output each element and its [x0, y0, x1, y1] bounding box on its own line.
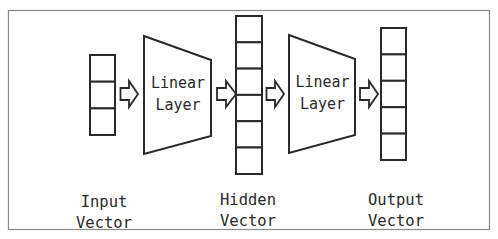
- input-vector-cell: [90, 82, 115, 109]
- hidden-vector-cell: [236, 121, 262, 147]
- hidden-vector-cell: [236, 42, 262, 68]
- input-vector-label-line2: Vector: [76, 214, 132, 232]
- output-vector-cell: [381, 107, 406, 133]
- output-vector-label-line2: Vector: [368, 212, 424, 230]
- output-vector-cell: [381, 134, 406, 160]
- input-vector: [90, 55, 115, 135]
- hidden-vector-cell: [236, 95, 262, 121]
- output-vector-cell: [381, 28, 406, 54]
- hidden-vector-cell: [236, 69, 262, 95]
- linear-layer-2-line1: Linear: [295, 73, 349, 91]
- hidden-vector: [236, 16, 262, 174]
- hidden-vector-label-line2: Vector: [220, 212, 276, 230]
- output-vector-cell: [381, 81, 406, 107]
- linear-layer-1-line1: Linear: [151, 74, 205, 92]
- linear-layer-1-line2: Layer: [155, 96, 200, 114]
- hidden-vector-cell: [236, 148, 262, 175]
- hidden-vector-cell: [236, 16, 262, 42]
- hidden-vector-label-line1: Hidden: [220, 191, 276, 209]
- input-vector-cell: [90, 55, 115, 82]
- input-vector-cell: [90, 108, 115, 135]
- output-vector-label-line1: Output: [368, 191, 424, 209]
- linear-layer-2-line2: Layer: [300, 95, 345, 113]
- output-vector-cell: [381, 54, 406, 80]
- linear-layers-diagram: Linear Layer Linear Layer Input Vector H…: [0, 0, 498, 239]
- output-vector: [381, 28, 406, 160]
- input-vector-label-line1: Input: [81, 193, 128, 211]
